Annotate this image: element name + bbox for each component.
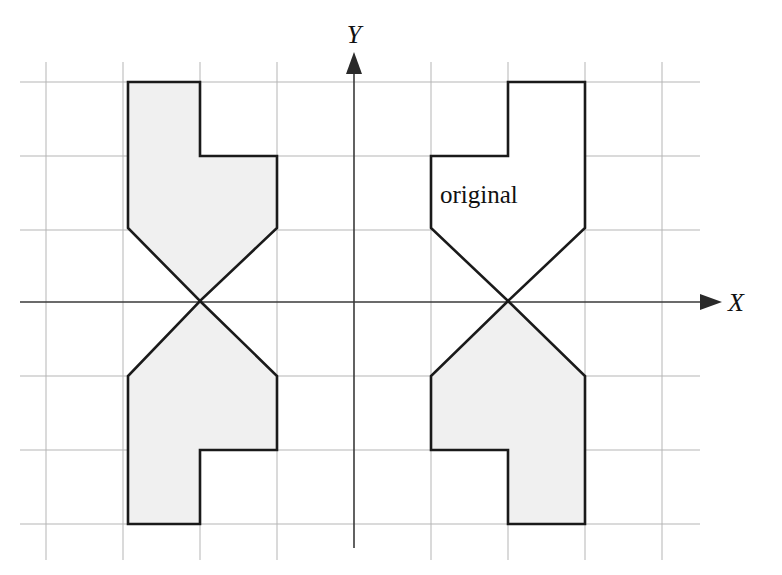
y-axis-label: Y [347,20,364,49]
reflected-figure-upper [128,82,277,301]
grid [20,62,700,560]
reflected-figure [128,82,277,524]
figure-canvas: Y X original [0,0,782,575]
x-axis [20,294,722,310]
original-figure-lower [431,301,585,524]
y-axis-arrowhead-icon [346,52,362,74]
x-axis-label: X [727,288,745,317]
y-axis [346,52,362,548]
grid-horizontal-lines [20,82,700,524]
axes [20,52,722,548]
geometry-figure: Y X original [0,0,782,575]
original-figure [431,82,585,524]
reflected-figure-lower [128,301,277,524]
x-axis-arrowhead-icon [700,294,722,310]
original-label: original [440,181,518,208]
